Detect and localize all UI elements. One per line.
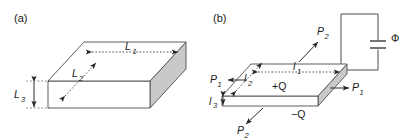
figure-svg: (a) L 1 L 2 — [0, 0, 418, 140]
polarization-p1-left-label: P — [210, 73, 217, 85]
slab-a-front-face — [48, 81, 150, 108]
dimension-b-length2-subscript: 2 — [247, 79, 253, 88]
figure-container: (a) L 1 L 2 — [0, 0, 418, 140]
polarization-p2-bottom-subscript: 2 — [244, 131, 250, 140]
circuit-wire-upper — [341, 14, 378, 70]
polarization-p2-bottom-arrow — [246, 108, 263, 124]
polarization-p2-bottom: P 2 — [237, 108, 263, 140]
polarization-p1-right-subscript: 1 — [360, 88, 364, 97]
dimension-b-length3: l 3 — [209, 95, 223, 110]
dimension-b-length1-subscript: 1 — [297, 67, 301, 76]
dimension-a-length3-subscript: 3 — [21, 95, 26, 104]
polarization-p2-top: P 2 — [299, 25, 330, 62]
polarization-p1-left-subscript: 1 — [218, 80, 222, 89]
dimension-a-length2-subscript: 2 — [78, 74, 84, 83]
dimension-b-length3-label: l — [209, 95, 212, 107]
polarization-p1-right-label: P — [352, 81, 359, 93]
polarization-p2-bottom-label: P — [237, 124, 244, 136]
panel-a: (a) L 1 L 2 — [14, 12, 186, 108]
dimension-a-length1-subscript: 1 — [133, 47, 137, 56]
dimension-b-length3-subscript: 3 — [213, 101, 218, 110]
dimension-a-length1-label: L — [125, 40, 131, 52]
charge-positive-label: +Q — [272, 80, 286, 92]
panel-b-label: (b) — [213, 12, 226, 24]
polarization-p2-top-label: P — [317, 25, 324, 37]
dimension-a-length3-label: L — [14, 88, 20, 100]
dimension-a-length3: L 3 — [14, 81, 50, 108]
polarization-p2-top-arrow — [299, 42, 318, 62]
panel-a-label: (a) — [14, 12, 27, 24]
panel-b: (b) Φ l 1 — [209, 12, 399, 140]
polarization-p2-top-subscript: 2 — [324, 32, 330, 41]
slab-b-front-face — [222, 96, 318, 106]
circuit-loop: Φ — [341, 14, 399, 70]
dimension-a-length2-label: L — [72, 67, 78, 79]
potential-phi-label: Φ — [391, 32, 399, 44]
charge-negative-label: −Q — [291, 108, 305, 120]
